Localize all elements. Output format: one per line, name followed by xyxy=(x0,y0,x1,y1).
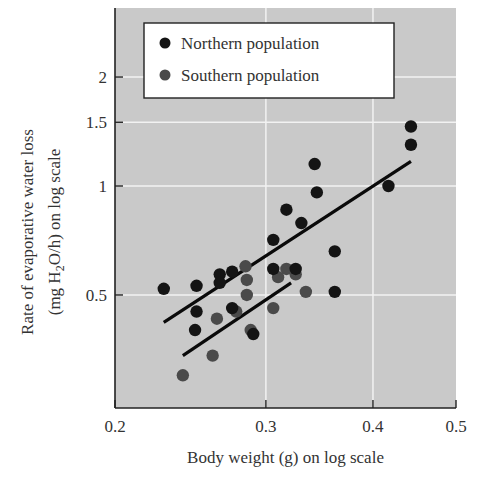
data-point-northern xyxy=(247,328,259,340)
x-tick-label: 0.3 xyxy=(255,417,276,436)
data-point-northern xyxy=(158,283,170,295)
legend-marker-northern xyxy=(160,38,171,49)
y-tick-label: 0.5 xyxy=(86,286,107,305)
y-axis-title-prefix: (mg H xyxy=(45,271,64,315)
data-point-northern xyxy=(308,158,320,170)
data-point-northern xyxy=(267,263,279,275)
data-point-northern xyxy=(214,277,226,289)
data-point-northern xyxy=(329,245,341,257)
x-axis-title: Body weight (g) on log scale xyxy=(187,448,384,467)
data-point-northern xyxy=(226,302,238,314)
legend-label-southern: Southern population xyxy=(181,66,320,85)
data-point-northern xyxy=(190,280,202,292)
data-point-northern xyxy=(329,286,341,298)
data-point-northern xyxy=(289,263,301,275)
data-point-southern xyxy=(239,260,251,272)
y-axis-title-line2: (mg H2O/h) on log scale xyxy=(45,149,67,316)
data-point-southern xyxy=(267,302,279,314)
data-point-northern xyxy=(405,120,417,132)
data-point-northern xyxy=(189,324,201,336)
data-point-southern xyxy=(241,289,253,301)
x-tick-label: 0.2 xyxy=(104,417,125,436)
legend-label-northern: Northern population xyxy=(181,34,320,53)
y-axis-title: Rate of evaporative water loss (mg H2O/h… xyxy=(18,129,67,335)
x-tick-label: 0.4 xyxy=(362,417,384,436)
x-tick-label: 0.5 xyxy=(445,417,466,436)
data-point-northern xyxy=(280,204,292,216)
data-point-northern xyxy=(311,186,323,198)
data-point-southern xyxy=(177,369,189,381)
data-point-southern xyxy=(211,312,223,324)
legend: Northern population Southern population xyxy=(144,23,394,98)
data-point-southern xyxy=(206,349,218,361)
data-point-southern xyxy=(241,274,253,286)
data-point-northern xyxy=(267,234,279,246)
scatter-chart: 0.20.30.40.5 0.511.52 Northern populatio… xyxy=(0,0,490,488)
legend-marker-southern xyxy=(160,70,171,81)
data-point-southern xyxy=(300,286,312,298)
data-point-northern xyxy=(405,139,417,151)
y-axis-title-line1: Rate of evaporative water loss xyxy=(18,129,37,335)
y-tick-label: 1 xyxy=(99,177,108,196)
y-tick-label: 2 xyxy=(99,68,108,87)
data-point-northern xyxy=(295,217,307,229)
data-point-northern xyxy=(190,305,202,317)
data-point-northern xyxy=(382,180,394,192)
data-point-northern xyxy=(226,265,238,277)
y-axis-title-suffix: O/h) on log scale xyxy=(45,149,64,266)
y-tick-label: 1.5 xyxy=(86,113,107,132)
